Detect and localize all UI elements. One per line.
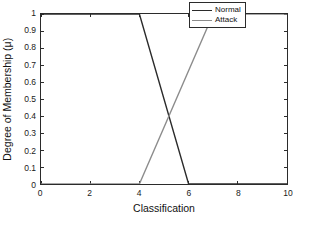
y-tick-label: 0.7 [14, 60, 36, 69]
y-tick-label: 1 [14, 9, 36, 18]
plot-svg [41, 14, 287, 184]
legend-entry: Attack [192, 15, 243, 25]
y-axis-title: Degree of Membership (μ) [0, 13, 14, 185]
y-tick-label: 0.3 [14, 129, 36, 138]
x-tick-label: 4 [137, 189, 142, 198]
x-tick-label: 8 [236, 189, 241, 198]
y-tick-label: 0.1 [14, 164, 36, 173]
figure-canvas: Degree of Membership (μ) 00.10.20.30.40.… [0, 0, 310, 229]
y-tick-label: 0.8 [14, 43, 36, 52]
legend-line-swatch [192, 20, 212, 21]
y-tick-label: 0.2 [14, 146, 36, 155]
plot-area [40, 13, 288, 185]
legend-box: NormalAttack [189, 2, 246, 28]
x-axis-title-text: Classification [133, 202, 195, 214]
data-line-group [41, 14, 287, 184]
y-axis-title-text: Degree of Membership (μ) [2, 38, 13, 161]
x-tick-label: 0 [38, 189, 43, 198]
x-axis-title: Classification [40, 203, 288, 214]
legend-label: Attack [215, 16, 237, 24]
y-tick-label: 0.9 [14, 26, 36, 35]
x-tick-label: 6 [186, 189, 191, 198]
series-line-normal [41, 14, 287, 184]
legend-entry: Normal [192, 5, 243, 15]
y-tick-label: 0.6 [14, 78, 36, 87]
x-tick-label: 10 [283, 189, 292, 198]
x-tick-label: 2 [87, 189, 92, 198]
y-tick-label: 0.4 [14, 112, 36, 121]
legend-line-swatch [192, 10, 212, 11]
y-tick-label: 0.5 [14, 95, 36, 104]
legend-label: Normal [215, 6, 241, 14]
y-tick-label: 0 [14, 181, 36, 190]
